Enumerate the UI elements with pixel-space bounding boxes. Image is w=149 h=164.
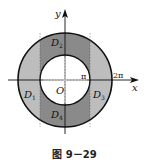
- x-axis-label: x: [132, 82, 138, 93]
- origin-label: O: [56, 85, 64, 96]
- two-pi-label: 2π: [113, 71, 123, 80]
- pi-label: π: [81, 72, 86, 81]
- y-axis-label: y: [54, 8, 61, 19]
- annulus-diagram: y x O π 2π D2 D1 D3 D4: [0, 0, 149, 164]
- figure-caption: 图 9－29: [0, 146, 149, 161]
